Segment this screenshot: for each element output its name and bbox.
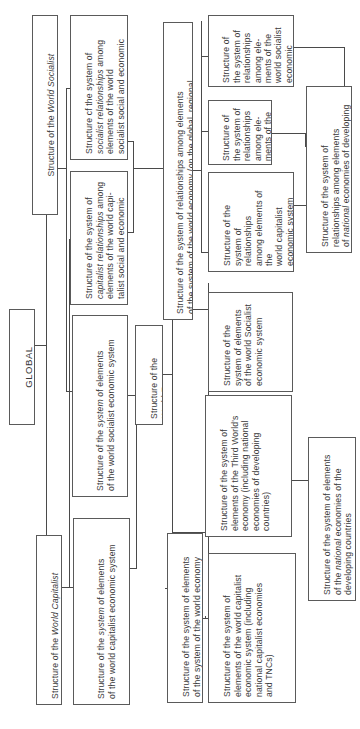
connector <box>272 133 305 134</box>
elements-socialist-economic-box: Structure of the system of elements of t… <box>208 292 293 392</box>
box-text: Structure of the system of <box>84 197 94 299</box>
elements-national-developing-box: Structure of the system of elements of t… <box>308 437 356 601</box>
box-text-italic: system <box>95 399 105 427</box>
box-text: Structure of the <box>149 358 159 419</box>
box-text: Structure of the system of relationships… <box>221 27 294 83</box>
box-text-italic: World Economy <box>160 356 163 419</box>
box-text-italic: World Capitalist <box>50 573 60 636</box>
elements-third-world-box: Structure of the system of elements of t… <box>205 395 292 537</box>
box-text-italic: national <box>341 206 351 237</box>
world-economy-elements-box: Structure of the system of elements of t… <box>167 533 203 703</box>
connector <box>201 252 208 253</box>
box-text: Structure of the system of elements of t… <box>181 557 201 697</box>
box-text: Structure of the system of elements of t… <box>222 575 274 697</box>
box-text-italic: system <box>96 607 106 635</box>
rel-socialist-economic-box: Structure of the system of relationships… <box>208 15 294 87</box>
world-capitalist-system-box: Structure of the World Capitalist Social… <box>36 535 62 705</box>
connector <box>294 47 344 48</box>
box-text: Structure of the <box>95 427 105 491</box>
elements-world-capitalist-box: Structure of the system of elements of t… <box>208 553 296 703</box>
global-structure-box: GLOBAL STRUCTURE OF THE WORLD <box>9 309 35 425</box>
box-text: Social and Economic System <box>57 57 58 172</box>
connector <box>192 170 201 171</box>
connector <box>133 141 134 233</box>
box-text: Structure of the system of elements of t… <box>222 304 263 386</box>
capitalist-relationships-box: Structure of the system of capitalist re… <box>70 171 128 305</box>
capitalist-elements-box: Structure of the system of elements of t… <box>73 518 130 705</box>
box-text-italic: national <box>333 539 343 570</box>
connector <box>133 168 163 169</box>
box-text: Structure of the system of elements of t… <box>219 415 271 531</box>
connector <box>66 88 67 392</box>
rel-third-world-box: Structure of the system of relationships… <box>208 100 272 165</box>
world-economy-box: Structure of the World Economy <box>135 325 163 425</box>
global-structure-diagram: GLOBAL STRUCTURE OF THE WORLD Structure … <box>0 0 360 729</box>
box-text: Structure of the system of relationships… <box>222 190 294 266</box>
box-text: Structure of the system of relationships… <box>175 78 193 314</box>
world-socialist-system-box: Structure of the World Socialist Social … <box>32 15 58 215</box>
connector <box>201 131 208 132</box>
connector <box>58 168 66 169</box>
box-text: Social and Economic System <box>61 584 62 699</box>
connector <box>201 56 208 57</box>
box-text-italic: capitalist relationships <box>95 211 105 299</box>
connector <box>344 47 345 86</box>
box-text: Structure of the <box>46 113 56 177</box>
world-economy-relationships-box: Structure of the system of relationships… <box>163 22 193 320</box>
box-text: Structure cf the system of <box>84 53 94 154</box>
box-text-italic: socialist relationships <box>95 69 105 154</box>
socialist-elements-box: Structure of the system of elements of t… <box>72 315 128 497</box>
rel-national-developing-box: Structure of the system of relationships… <box>306 86 352 253</box>
global-structure-text: GLOBAL STRUCTURE OF THE WORLD <box>23 327 35 406</box>
box-text: Structure of the <box>96 635 106 699</box>
box-text-italic: World Socialist <box>46 54 56 113</box>
rel-capitalist-economic-box: Structure of the system of relationships… <box>208 172 294 272</box>
connector <box>163 374 172 375</box>
box-text: Structure of the system of relationships… <box>221 108 272 161</box>
socialist-relationships-box: Structure cf the system of socialist rel… <box>70 15 128 160</box>
box-text: Structure of the <box>50 635 60 699</box>
